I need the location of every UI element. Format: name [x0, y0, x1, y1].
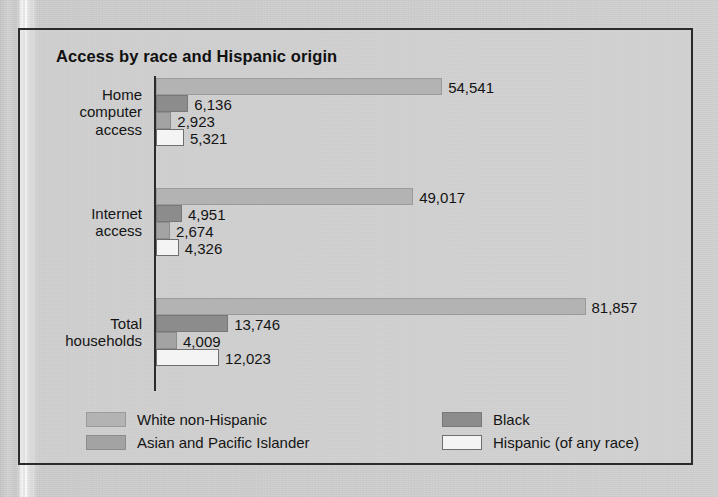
bar-value-label: 81,857: [586, 298, 638, 315]
bar-row: 54,541: [156, 78, 602, 95]
chart-legend: White non-HispanicBlackAsian and Pacific…: [86, 409, 686, 455]
bar-value-label: 5,321: [184, 129, 228, 146]
bar-row: 4,009: [156, 332, 602, 349]
category-label: Totalhouseholds: [0, 315, 142, 350]
bar-group: Internetaccess49,0174,9512,6744,326: [20, 188, 695, 256]
bar-row: 4,326: [156, 239, 602, 256]
bar: [156, 222, 170, 239]
category-label-line: Total: [0, 315, 142, 333]
legend-item: Black: [442, 409, 530, 429]
category-label-line: Internet: [0, 205, 142, 223]
bar: [156, 95, 188, 112]
bar-row: 12,023: [156, 349, 602, 366]
category-label-line: access: [0, 222, 142, 240]
legend-item: Hispanic (of any race): [442, 432, 639, 452]
bar-row: 2,923: [156, 112, 602, 129]
bar-row: 49,017: [156, 188, 602, 205]
legend-item: White non-Hispanic: [86, 409, 267, 429]
category-label-line: computer: [0, 103, 142, 121]
plot-area: Homecomputeraccess54,5416,1362,9235,321I…: [20, 30, 695, 467]
legend-label: Black: [493, 411, 530, 428]
bar: [156, 315, 228, 332]
bar-value-label: 12,023: [219, 349, 271, 366]
bar-value-label: 2,674: [170, 222, 214, 239]
bar-row: 6,136: [156, 95, 602, 112]
bar: [156, 349, 219, 366]
bar-row: 81,857: [156, 298, 602, 315]
bar-row: 2,674: [156, 222, 602, 239]
bar: [156, 78, 442, 95]
category-label-line: Home: [0, 86, 142, 104]
bar-value-label: 49,017: [413, 188, 465, 205]
bar: [156, 332, 177, 349]
bar-group: Totalhouseholds81,85713,7464,00912,023: [20, 298, 695, 366]
bar: [156, 112, 171, 129]
legend-swatch: [86, 435, 126, 450]
bar-value-label: 54,541: [442, 78, 494, 95]
bar-value-label: 2,923: [171, 112, 215, 129]
legend-label: Hispanic (of any race): [493, 434, 639, 451]
bar: [156, 129, 184, 146]
bar-row: 4,951: [156, 205, 602, 222]
bar-value-label: 6,136: [188, 95, 232, 112]
bar-value-label: 13,746: [228, 315, 280, 332]
bar-row: 13,746: [156, 315, 602, 332]
legend-swatch: [86, 412, 126, 427]
legend-swatch: [442, 412, 482, 427]
bar-value-label: 4,951: [182, 205, 226, 222]
bar: [156, 188, 413, 205]
category-label-line: access: [0, 121, 142, 139]
legend-label: Asian and Pacific Islander: [137, 434, 310, 451]
bar-group: Homecomputeraccess54,5416,1362,9235,321: [20, 78, 695, 146]
category-label-line: households: [0, 332, 142, 350]
category-label: Homecomputeraccess: [0, 86, 142, 139]
chart-frame: Access by race and Hispanic origin Homec…: [18, 28, 693, 465]
bar: [156, 298, 586, 315]
bar: [156, 239, 179, 256]
legend-swatch: [442, 435, 482, 450]
bar: [156, 205, 182, 222]
bar-row: 5,321: [156, 129, 602, 146]
legend-item: Asian and Pacific Islander: [86, 432, 310, 452]
bar-value-label: 4,326: [179, 239, 223, 256]
legend-label: White non-Hispanic: [137, 411, 267, 428]
category-label: Internetaccess: [0, 205, 142, 240]
bar-value-label: 4,009: [177, 332, 221, 349]
